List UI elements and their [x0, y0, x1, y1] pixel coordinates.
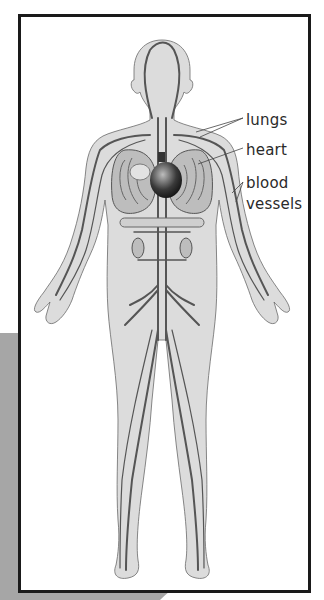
circulatory-system-figure — [0, 0, 324, 600]
intestines — [120, 218, 204, 227]
label-vessels: vessels — [246, 196, 302, 212]
label-lungs: lungs — [246, 112, 288, 128]
label-heart: heart — [246, 142, 287, 158]
label-blood: blood — [246, 175, 289, 191]
